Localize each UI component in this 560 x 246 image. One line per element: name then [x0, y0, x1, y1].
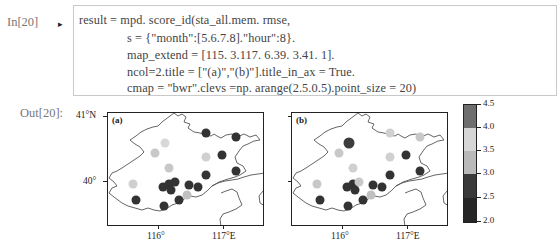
- x-tick: [342, 225, 343, 229]
- colorbar-segment: [464, 128, 476, 151]
- y-tick-label: 41°N: [76, 110, 96, 120]
- colorbar-tick: [477, 127, 481, 128]
- x-tick-label: 116°: [331, 231, 349, 241]
- colorbar-tick: [477, 173, 481, 174]
- colorbar-label: 4.5: [483, 98, 494, 108]
- panel-label-a: (a): [112, 115, 123, 125]
- colorbar-segment: [464, 174, 476, 198]
- colorbar-segment: [464, 151, 476, 174]
- beijing-boundary-map-b: [292, 113, 448, 226]
- x-tick: [407, 225, 408, 229]
- figure-output: 41°N 40°: [0, 0, 560, 246]
- x-tick-label: 116°: [147, 231, 165, 241]
- colorbar-tick: [477, 197, 481, 198]
- colorbar-tick: [477, 104, 481, 105]
- colorbar-label: 3.0: [483, 167, 494, 177]
- colorbar: [463, 104, 477, 223]
- colorbar-label: 4.0: [483, 121, 494, 131]
- colorbar-segment: [464, 105, 476, 128]
- x-tick-label: 117°E: [212, 231, 236, 241]
- colorbar-tick: [477, 221, 481, 222]
- x-tick: [158, 225, 159, 229]
- colorbar-label: 2.5: [483, 191, 494, 201]
- map-panel-a: (a): [107, 112, 264, 226]
- y-tick-label: 40°: [83, 176, 96, 186]
- x-tick-label: 117°E: [396, 231, 420, 241]
- colorbar-tick: [477, 150, 481, 151]
- colorbar-segment: [464, 198, 476, 222]
- colorbar-label: 2.0: [483, 215, 494, 225]
- panel-label-b: (b): [296, 115, 307, 125]
- colorbar-label: 3.5: [483, 144, 494, 154]
- beijing-boundary-map-a: [108, 113, 264, 226]
- x-tick: [223, 225, 224, 229]
- map-panel-b: (b): [291, 112, 448, 226]
